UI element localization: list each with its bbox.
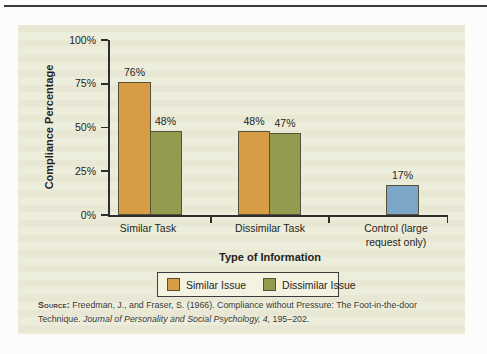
bar-value-label: 76% [113, 66, 157, 78]
source-label: Source: [38, 300, 70, 310]
bar-control [386, 185, 419, 215]
x-axis-title: Type of Information [190, 251, 350, 263]
source-note: Source: Freedman, J., and Fraser, S. (19… [38, 299, 468, 326]
bar-dissimilar-issue [149, 131, 182, 215]
y-axis-tick [101, 83, 108, 85]
legend-swatch [167, 278, 180, 291]
bar-similar-issue [238, 131, 271, 215]
source-page-range: 195–202. [270, 314, 309, 324]
x-axis-line [108, 215, 448, 217]
page-top-rule [4, 5, 487, 7]
legend: Similar IssueDissimilar Issue [157, 272, 339, 297]
source-line-1: Source: Freedman, J., and Fraser, S. (19… [38, 299, 468, 313]
y-axis-tick [101, 170, 108, 172]
y-axis-tick [101, 127, 108, 129]
category-label: Dissimilar Task [220, 222, 320, 236]
legend-swatch [263, 278, 276, 291]
y-axis-tick-label: 100% [36, 34, 96, 47]
source-citation-part2: Technique. [38, 314, 83, 324]
legend-item: Dissimilar Issue [263, 278, 356, 291]
x-axis-tick [328, 216, 330, 223]
x-axis-tick [447, 216, 449, 223]
legend-item: Similar Issue [167, 278, 246, 291]
y-axis-line [108, 40, 110, 217]
y-axis-tick [101, 214, 108, 216]
category-label: Similar Task [98, 222, 198, 236]
source-journal-title: Journal of Personality and Social Psycho… [83, 314, 270, 324]
x-axis-tick [210, 216, 212, 223]
y-axis-tick-label: 0% [36, 209, 96, 222]
y-axis-tick-label: 75% [36, 77, 96, 90]
bar-chart: Compliance Percentage Type of Informatio… [18, 25, 465, 334]
bar-value-label: 17% [381, 169, 425, 181]
y-axis-tick-label: 50% [36, 121, 96, 134]
category-label: Control (large request only) [346, 222, 446, 249]
legend-label: Dissimilar Issue [282, 279, 356, 291]
figure-panel: Compliance Percentage Type of Informatio… [18, 25, 465, 334]
bar-dissimilar-issue [269, 133, 302, 215]
legend-label: Similar Issue [186, 279, 246, 291]
source-citation-part1: Freedman, J., and Fraser, S. (1966). Com… [70, 300, 417, 310]
y-axis-tick-label: 25% [36, 165, 96, 178]
y-axis-tick [101, 39, 108, 41]
source-line-2: Technique. Journal of Personality and So… [38, 313, 468, 327]
bar-similar-issue [118, 82, 151, 215]
bar-value-label: 47% [263, 117, 307, 129]
